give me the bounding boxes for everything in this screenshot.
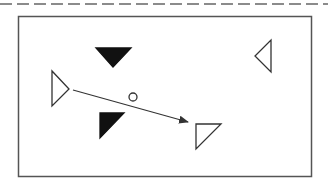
diagram-frame: [19, 17, 312, 177]
outline-left-triangle-icon: [255, 40, 271, 72]
outline-corner-triangle-icon: [196, 124, 221, 149]
filled-down-triangle-icon: [96, 48, 131, 67]
small-circle-icon: [129, 93, 137, 101]
diagram-canvas: [0, 0, 328, 186]
outline-right-triangle-icon: [52, 71, 69, 106]
shapes-group: [52, 40, 271, 149]
filled-corner-triangle-icon: [100, 113, 124, 138]
